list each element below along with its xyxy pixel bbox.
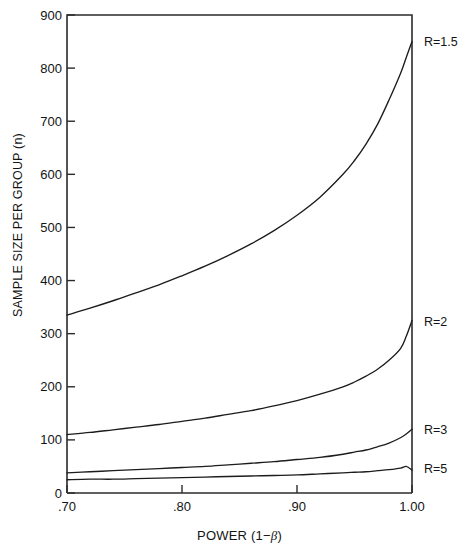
- x-axis-title-close: ): [277, 528, 282, 543]
- x-axis-title-text: POWER (1−: [197, 528, 271, 543]
- y-tick-label: 100: [18, 433, 62, 446]
- y-tick-label: 500: [18, 221, 62, 234]
- curve-r-3: [67, 429, 412, 473]
- x-tick-label: .70: [37, 500, 97, 513]
- curve-r-5: [67, 466, 412, 479]
- curve-r-1-5: [67, 42, 412, 316]
- plot-axes: [67, 15, 412, 493]
- curve-r-2: [67, 320, 412, 434]
- chart-figure: SAMPLE SIZE PER GROUP (n) 01002003004005…: [0, 0, 474, 551]
- series-label: R=3: [424, 424, 447, 437]
- x-tick-label: 1.00: [382, 500, 442, 513]
- y-axis-tick-labels: 0100200300400500600700800900: [14, 0, 62, 551]
- y-tick-label: 900: [18, 9, 62, 22]
- axis-frame: [67, 15, 412, 493]
- axis-ticks: [67, 15, 412, 493]
- series-label: R=1.5: [424, 36, 458, 49]
- data-curves: [67, 42, 412, 480]
- series-label: R=2: [424, 316, 447, 329]
- y-tick-label: 200: [18, 380, 62, 393]
- y-tick-label: 700: [18, 115, 62, 128]
- y-tick-label: 0: [18, 487, 62, 500]
- series-label: R=5: [424, 463, 447, 476]
- y-tick-label: 800: [18, 62, 62, 75]
- y-tick-label: 300: [18, 327, 62, 340]
- x-axis-title: POWER (1−β): [67, 528, 412, 544]
- x-tick-label: .80: [152, 500, 212, 513]
- y-tick-label: 400: [18, 274, 62, 287]
- plot-canvas: [0, 0, 474, 551]
- y-tick-label: 600: [18, 168, 62, 181]
- x-tick-label: .90: [267, 500, 327, 513]
